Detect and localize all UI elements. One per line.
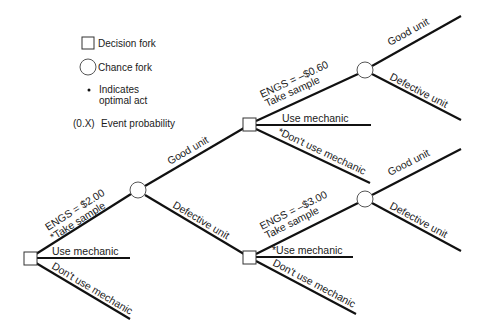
chance1-defective-unit-label: Defective unit bbox=[171, 198, 232, 241]
lower-decision-fork-icon bbox=[243, 251, 256, 264]
upper-chance-good-unit-label: Good unit bbox=[385, 15, 431, 48]
legend-probability-label: Event probability bbox=[101, 118, 175, 129]
chance1-labels: Good unit Defective unit bbox=[165, 133, 232, 241]
lower-decision-labels: ENGS = –$3.00 Take sample *Use mechanic … bbox=[258, 188, 358, 310]
legend-probability-symbol: (0.X) bbox=[73, 118, 95, 129]
lower-chance-fork-icon bbox=[357, 191, 373, 207]
upper-chance-labels: Good unit Defective unit bbox=[385, 15, 450, 110]
legend-optimal-line1: Indicates bbox=[99, 84, 139, 95]
upper-dont-use-mechanic-label: *Don't use mechanic bbox=[276, 125, 368, 177]
branch-root-dont-use-mechanic bbox=[36, 263, 130, 319]
branch-upper-dont-use-mechanic bbox=[256, 129, 370, 183]
upper-chance-fork-icon bbox=[357, 62, 373, 78]
lower-chance-defective-unit-label: Defective unit bbox=[388, 199, 450, 240]
legend: Decision fork Chance fork Indicates opti… bbox=[73, 37, 175, 129]
lower-dont-use-mechanic-label: Don't use mechanic bbox=[271, 256, 358, 310]
upper-decision-fork-icon bbox=[243, 118, 256, 131]
chance1-fork-icon bbox=[130, 182, 146, 198]
legend-decision-label: Decision fork bbox=[98, 38, 157, 49]
legend-chance-circle-icon bbox=[80, 59, 96, 75]
upper-use-mechanic-label: Use mechanic bbox=[282, 112, 349, 124]
legend-chance-label: Chance fork bbox=[98, 62, 153, 73]
branch-chance1-good-unit bbox=[145, 128, 244, 186]
legend-optimal-line2: optimal act bbox=[99, 95, 148, 106]
root-decision-fork-icon bbox=[24, 252, 37, 265]
lower-use-mechanic-label: *Use mechanic bbox=[272, 244, 343, 256]
branch-lower-dont-use-mechanic bbox=[256, 261, 356, 314]
branch-lower-chance-defective-unit bbox=[372, 203, 461, 251]
decision-tree-diagram: Decision fork Chance fork Indicates opti… bbox=[0, 0, 481, 336]
legend-optimal-dot-icon bbox=[88, 89, 91, 92]
root-dont-use-mechanic-label: Don't use mechanic bbox=[50, 259, 135, 316]
nodes bbox=[24, 62, 373, 265]
upper-chance-defective-unit-label: Defective unit bbox=[388, 70, 450, 110]
branch-chance1-defective-unit bbox=[145, 195, 244, 254]
root-use-mechanic-label: Use mechanic bbox=[52, 245, 119, 257]
legend-decision-square-icon bbox=[82, 37, 94, 49]
root-labels: ENGS = $2.00 *Take sample Use mechanic D… bbox=[43, 186, 135, 317]
lower-chance-good-unit-label: Good unit bbox=[385, 146, 431, 178]
